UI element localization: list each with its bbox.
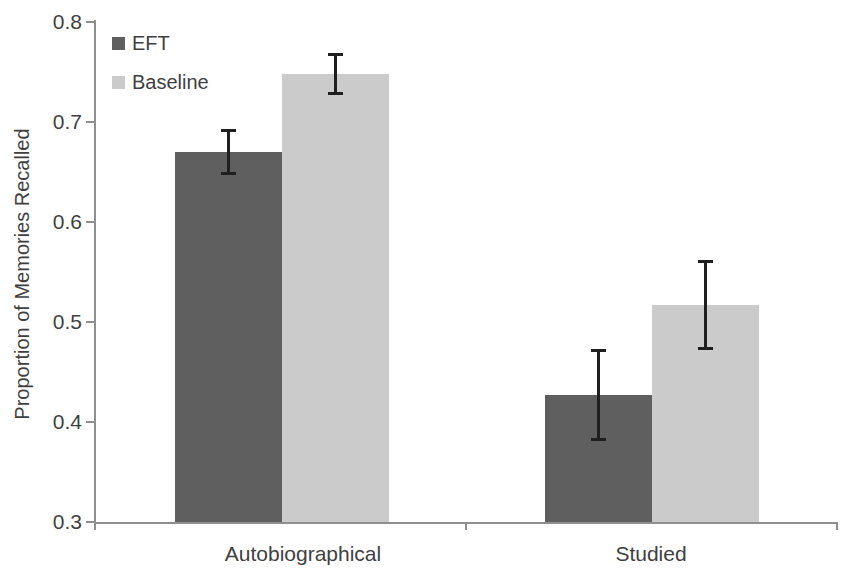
error-bar-autobiographical-baseline-cap-top: [328, 53, 343, 56]
y-tick-label-0.3: 0.3: [26, 510, 82, 534]
figure: Proportion of Memories Recalled 0.30.40.…: [0, 0, 850, 584]
y-tick-mark-0.4: [86, 421, 94, 423]
y-tick-label-0.5: 0.5: [26, 310, 82, 334]
y-tick-label-0.7: 0.7: [26, 110, 82, 134]
legend-label-eft: EFT: [132, 32, 170, 55]
y-tick-mark-0.3: [86, 521, 94, 523]
error-bar-autobiographical-baseline-cap-bottom: [328, 92, 343, 95]
x-category-label-autobiographical: Autobiographical: [183, 542, 423, 566]
y-tick-label-0.4: 0.4: [26, 410, 82, 434]
bar-autobiographical-eft: [175, 152, 282, 522]
x-tick-mark-2: [836, 524, 838, 530]
error-bar-autobiographical-eft-cap-top: [221, 129, 236, 132]
error-bar-autobiographical-eft-cap-bottom: [221, 172, 236, 175]
bar-autobiographical-baseline: [282, 74, 389, 522]
y-tick-mark-0.8: [86, 21, 94, 23]
x-category-label-studied: Studied: [531, 542, 771, 566]
legend-label-baseline: Baseline: [132, 71, 209, 94]
legend-item-baseline: Baseline: [112, 72, 209, 92]
y-tick-label-0.6: 0.6: [26, 210, 82, 234]
error-bar-autobiographical-baseline-line: [334, 54, 337, 94]
x-tick-mark-1: [465, 524, 467, 530]
error-bar-studied-baseline-cap-top: [698, 260, 713, 263]
y-tick-mark-0.5: [86, 321, 94, 323]
error-bar-studied-eft-line: [597, 350, 600, 440]
error-bar-studied-baseline-line: [704, 261, 707, 349]
y-tick-label-0.8: 0.8: [26, 10, 82, 34]
legend-swatch-eft-icon: [112, 37, 125, 50]
error-bar-studied-baseline-cap-bottom: [698, 347, 713, 350]
y-tick-mark-0.7: [86, 121, 94, 123]
legend-swatch-baseline-icon: [112, 76, 125, 89]
y-axis-line: [94, 20, 96, 524]
legend: EFTBaseline: [112, 33, 209, 111]
error-bar-studied-eft-cap-bottom: [591, 438, 606, 441]
x-tick-mark-0: [94, 524, 96, 530]
error-bar-autobiographical-eft-line: [227, 130, 230, 174]
legend-item-eft: EFT: [112, 33, 209, 53]
error-bar-studied-eft-cap-top: [591, 349, 606, 352]
y-tick-mark-0.6: [86, 221, 94, 223]
